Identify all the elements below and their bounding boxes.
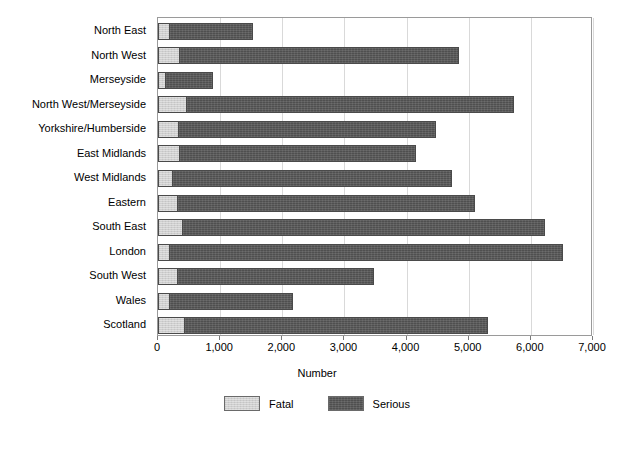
- y-axis-label: North West/Merseyside: [0, 91, 152, 118]
- x-tick-mark: [592, 336, 593, 340]
- x-tick-mark: [157, 336, 158, 340]
- bar-row[interactable]: [158, 116, 436, 143]
- x-tick-mark: [530, 336, 531, 340]
- legend-item[interactable]: Serious: [328, 396, 410, 411]
- legend-label: Serious: [373, 398, 410, 410]
- bar-segment-fatal[interactable]: [158, 317, 184, 334]
- y-axis-label: East Midlands: [0, 140, 152, 167]
- legend-swatch-fatal: [224, 396, 260, 411]
- legend-item[interactable]: Fatal: [224, 396, 293, 411]
- x-axis-ticks: 01,0002,0003,0004,0005,0006,0007,000: [157, 336, 593, 354]
- x-tick-mark: [468, 336, 469, 340]
- x-tick-mark: [219, 336, 220, 340]
- y-axis-label: South East: [0, 213, 152, 240]
- bar-row[interactable]: [158, 288, 293, 315]
- y-axis-label: North East: [0, 17, 152, 44]
- bar-row[interactable]: [158, 67, 213, 94]
- y-axis-label: North West: [0, 42, 152, 69]
- bar-segment-fatal[interactable]: [158, 244, 169, 261]
- plot-area: [157, 17, 592, 336]
- bar-row[interactable]: [158, 190, 475, 217]
- y-axis-label: South West: [0, 262, 152, 289]
- x-tick-label: 0: [154, 341, 160, 353]
- x-axis-title: Number: [0, 367, 634, 379]
- bar-segment-serious[interactable]: [165, 72, 213, 89]
- bar-segment-serious[interactable]: [186, 96, 514, 113]
- bar-segment-serious[interactable]: [172, 170, 452, 187]
- y-axis-label: London: [0, 238, 152, 265]
- bar-row[interactable]: [158, 141, 416, 168]
- stacked-bar-chart: North EastNorth WestMerseysideNorth West…: [0, 0, 634, 450]
- y-axis-label: West Midlands: [0, 164, 152, 191]
- bar-segment-serious[interactable]: [177, 195, 475, 212]
- bar-row[interactable]: [158, 263, 374, 290]
- bar-row[interactable]: [158, 43, 459, 70]
- y-axis-label: Yorkshire/Humberside: [0, 115, 152, 142]
- bar-segment-serious[interactable]: [177, 268, 375, 285]
- bar-segment-fatal[interactable]: [158, 293, 169, 310]
- legend-label: Fatal: [269, 398, 293, 410]
- bar-segment-fatal[interactable]: [158, 268, 177, 285]
- bar-segment-fatal[interactable]: [158, 195, 177, 212]
- y-axis-label: Wales: [0, 287, 152, 314]
- x-tick-label: 5,000: [454, 341, 482, 353]
- gridline: [593, 18, 594, 335]
- bar-row[interactable]: [158, 239, 563, 266]
- bar-segment-serious[interactable]: [169, 23, 253, 40]
- legend-swatch-serious: [328, 396, 364, 411]
- x-tick-label: 2,000: [268, 341, 296, 353]
- x-tick-label: 4,000: [392, 341, 420, 353]
- bar-row[interactable]: [158, 92, 514, 119]
- bar-segment-fatal[interactable]: [158, 121, 178, 138]
- x-tick-label: 1,000: [205, 341, 233, 353]
- x-tick-label: 3,000: [330, 341, 358, 353]
- x-tick-mark: [406, 336, 407, 340]
- bar-segment-fatal[interactable]: [158, 47, 179, 64]
- y-axis-label: Scotland: [0, 311, 152, 338]
- bar-segment-serious[interactable]: [169, 293, 294, 310]
- bar-row[interactable]: [158, 165, 452, 192]
- bar-segment-serious[interactable]: [178, 121, 437, 138]
- x-tick-label: 6,000: [516, 341, 544, 353]
- bar-segment-serious[interactable]: [169, 244, 563, 261]
- x-tick-label: 7,000: [578, 341, 606, 353]
- bar-segment-serious[interactable]: [182, 219, 545, 236]
- bar-row[interactable]: [158, 18, 253, 45]
- bar-segment-serious[interactable]: [179, 145, 415, 162]
- chart-legend: FatalSerious: [0, 396, 634, 411]
- bar-segment-fatal[interactable]: [158, 96, 186, 113]
- bar-segment-fatal[interactable]: [158, 23, 169, 40]
- x-tick-mark: [281, 336, 282, 340]
- bar-segment-fatal[interactable]: [158, 145, 179, 162]
- bar-rows: [158, 18, 591, 335]
- bar-segment-serious[interactable]: [179, 47, 458, 64]
- bar-row[interactable]: [158, 214, 545, 241]
- y-axis-label: Merseyside: [0, 66, 152, 93]
- y-axis-labels: North EastNorth WestMerseysideNorth West…: [0, 17, 152, 336]
- bar-segment-serious[interactable]: [184, 317, 488, 334]
- x-tick-mark: [343, 336, 344, 340]
- bar-segment-fatal[interactable]: [158, 219, 182, 236]
- bar-segment-fatal[interactable]: [158, 170, 172, 187]
- y-axis-label: Eastern: [0, 189, 152, 216]
